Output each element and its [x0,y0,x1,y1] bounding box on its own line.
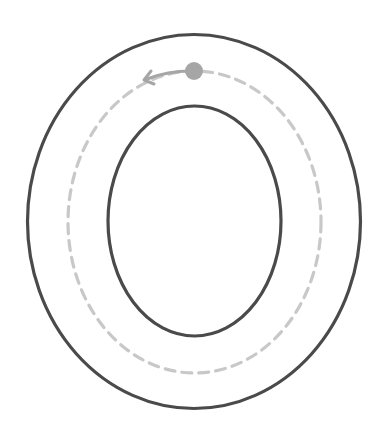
letter-o-drawing [0,0,388,434]
inner-outline [108,106,281,336]
start-dot-icon[interactable] [185,62,203,80]
dashed-trace-guide[interactable] [68,71,321,373]
letter-o-tracing-worksheet: O [0,0,388,434]
outer-outline [28,35,361,409]
